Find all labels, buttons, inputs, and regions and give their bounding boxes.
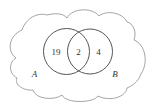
region-b-only-count: 4 <box>96 48 101 57</box>
set-a-label: A <box>32 70 38 79</box>
region-intersection-count: 2 <box>76 48 81 57</box>
region-a-only-count: 19 <box>52 48 61 57</box>
venn-diagram: 19 2 4 A B <box>0 0 151 109</box>
set-a-circle <box>44 29 90 75</box>
set-b-label: B <box>112 70 118 79</box>
